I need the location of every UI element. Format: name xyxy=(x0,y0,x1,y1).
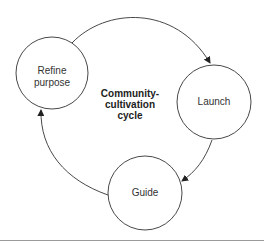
edge-launch-to-guide-arrow xyxy=(182,140,212,181)
edge-refine-to-launch-arrow xyxy=(72,17,210,63)
guide-label-line-1: Guide xyxy=(132,187,159,199)
diagram-svg xyxy=(0,0,264,246)
cycle-diagram: Refine purpose Launch Guide Community- c… xyxy=(0,0,264,246)
cycle-title-line-3: cycle xyxy=(101,110,159,121)
node-launch-label: Launch xyxy=(198,96,231,108)
cycle-title-line-2: cultivation xyxy=(101,99,159,110)
node-refine-purpose-label: Refine purpose xyxy=(34,65,70,89)
cycle-title-line-1: Community- xyxy=(101,88,159,99)
refine-label-line-2: purpose xyxy=(34,77,70,89)
launch-label-line-1: Launch xyxy=(198,96,231,108)
cycle-title: Community- cultivation cycle xyxy=(101,88,159,121)
refine-label-line-1: Refine xyxy=(34,65,70,77)
edge-guide-to-refine-arrow xyxy=(41,110,108,195)
node-guide-label: Guide xyxy=(132,187,159,199)
bottom-divider xyxy=(0,240,264,241)
